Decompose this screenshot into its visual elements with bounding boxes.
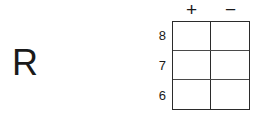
figure-canvas: R + − 8 7 6: [0, 0, 256, 117]
column-header-minus: −: [211, 0, 250, 21]
row-variable-label: R: [12, 44, 52, 82]
matrix-cell-r6-plus[interactable]: [173, 80, 211, 109]
column-header-plus: +: [172, 0, 211, 21]
matrix-cell-r7-plus[interactable]: [173, 51, 211, 79]
column-header-row: + −: [172, 0, 250, 21]
row-header-7: 7: [140, 51, 168, 81]
matrix-grid: [172, 21, 250, 110]
table-row: [173, 80, 249, 109]
table-row: [173, 51, 249, 80]
matrix-cell-r7-minus[interactable]: [211, 51, 249, 79]
matrix-cell-r8-minus[interactable]: [211, 22, 249, 50]
matrix-cell-r8-plus[interactable]: [173, 22, 211, 50]
table-row: [173, 22, 249, 51]
matrix-cell-r6-minus[interactable]: [211, 80, 249, 109]
row-header-column: 8 7 6: [140, 21, 168, 110]
row-header-8: 8: [140, 21, 168, 51]
row-header-6: 6: [140, 80, 168, 110]
